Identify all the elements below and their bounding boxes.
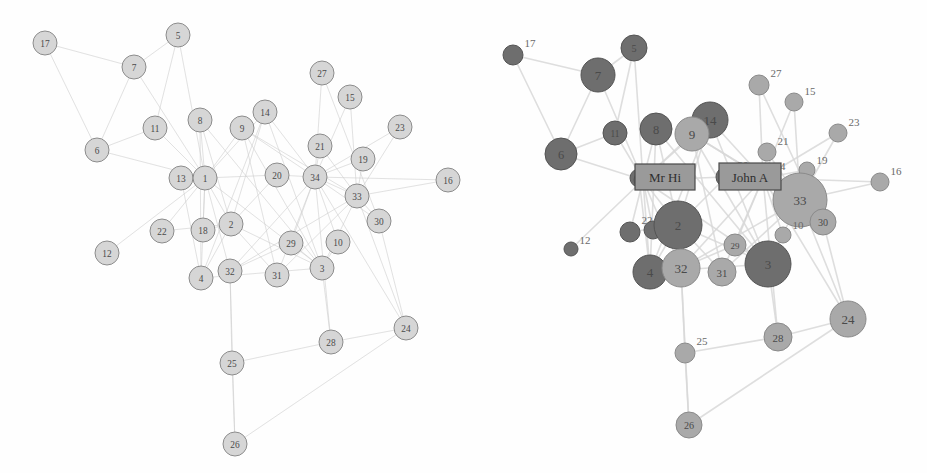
graph-node[interactable]: 5 bbox=[166, 23, 190, 47]
graph-node[interactable]: 11 bbox=[603, 121, 627, 145]
graph-node[interactable]: 19 bbox=[351, 147, 375, 171]
network-graph-uniform[interactable]: 1757271514118923216191312034163330221822… bbox=[0, 0, 463, 473]
node-id-label: 15 bbox=[345, 93, 355, 103]
graph-node[interactable]: 25 bbox=[220, 351, 244, 375]
graph-node[interactable]: 11 bbox=[143, 116, 167, 140]
graph-node[interactable]: 26 bbox=[676, 412, 702, 438]
node-id-label: 6 bbox=[558, 148, 564, 162]
graph-node[interactable]: 2 bbox=[654, 201, 702, 249]
graph-node[interactable]: 21 bbox=[758, 135, 789, 161]
graph-node[interactable]: 7 bbox=[122, 55, 146, 79]
graph-node[interactable]: 4 bbox=[633, 255, 667, 289]
node-id-label: 16 bbox=[443, 176, 453, 186]
node-id-label: 3 bbox=[320, 264, 325, 274]
graph-node[interactable]: 32 bbox=[218, 259, 242, 283]
leader-label-mr-hi[interactable]: Mr Hi bbox=[635, 164, 695, 190]
graph-edge bbox=[242, 128, 277, 275]
node-circle[interactable] bbox=[871, 173, 889, 191]
graph-node[interactable]: 24 bbox=[394, 316, 418, 340]
graph-node[interactable]: 12 bbox=[95, 241, 119, 265]
graph-node[interactable]: 4 bbox=[189, 266, 213, 290]
node-circle[interactable] bbox=[620, 222, 640, 242]
node-id-label: 13 bbox=[176, 174, 186, 184]
node-id-label: 2 bbox=[675, 218, 682, 233]
graph-node[interactable]: 26 bbox=[223, 432, 247, 456]
node-id-label: 4 bbox=[199, 274, 204, 284]
graph-node[interactable]: 3 bbox=[745, 241, 791, 287]
node-id-label: 25 bbox=[697, 335, 709, 347]
network-graph-weighted[interactable]: 1757271514118923216191312034163330221822… bbox=[463, 0, 927, 473]
graph-node[interactable]: 20 bbox=[265, 163, 289, 187]
leader-label-john-a[interactable]: John A bbox=[719, 163, 781, 190]
node-id-label: 30 bbox=[374, 217, 384, 227]
graph-node[interactable]: 27 bbox=[749, 67, 782, 95]
node-circle[interactable] bbox=[564, 242, 578, 256]
graph-node[interactable]: 9 bbox=[230, 116, 254, 140]
node-circle[interactable] bbox=[675, 343, 695, 363]
graph-node[interactable]: 27 bbox=[310, 61, 334, 85]
node-circle[interactable] bbox=[775, 227, 791, 243]
graph-node[interactable]: 6 bbox=[545, 138, 577, 170]
edge-layer bbox=[45, 35, 448, 444]
graph-node[interactable]: 12 bbox=[564, 234, 591, 256]
node-id-label: 12 bbox=[102, 249, 112, 259]
node-layer: 1757271514118923216191312034163330221822… bbox=[503, 35, 902, 438]
node-id-label: 14 bbox=[260, 108, 270, 118]
graph-node[interactable]: 16 bbox=[871, 165, 902, 191]
graph-node[interactable]: 14 bbox=[253, 100, 277, 124]
graph-node[interactable]: 2 bbox=[219, 212, 243, 236]
node-id-label: 22 bbox=[157, 227, 167, 237]
graph-node[interactable]: 15 bbox=[785, 85, 816, 111]
graph-edge bbox=[232, 342, 331, 363]
graph-node[interactable]: 29 bbox=[279, 231, 303, 255]
node-id-label: 8 bbox=[198, 116, 203, 126]
graph-node[interactable]: 6 bbox=[85, 138, 109, 162]
graph-node[interactable]: 24 bbox=[830, 301, 866, 337]
graph-node[interactable]: 34 bbox=[303, 165, 327, 189]
graph-node[interactable]: 17 bbox=[503, 37, 536, 65]
graph-node[interactable]: 1 bbox=[193, 166, 217, 190]
node-circle[interactable] bbox=[503, 45, 523, 65]
node-id-label: 19 bbox=[358, 155, 368, 165]
graph-node[interactable]: 22 bbox=[150, 219, 174, 243]
graph-node[interactable]: 8 bbox=[640, 113, 672, 145]
graph-node[interactable]: 3 bbox=[310, 256, 334, 280]
node-id-label: 10 bbox=[333, 238, 343, 248]
graph-node[interactable]: 29 bbox=[724, 234, 746, 256]
graph-node[interactable]: 17 bbox=[33, 31, 57, 55]
graph-node[interactable]: 10 bbox=[326, 230, 350, 254]
node-circle[interactable] bbox=[785, 93, 803, 111]
node-layer: 1757271514118923216191312034163330221822… bbox=[33, 23, 460, 456]
graph-node[interactable]: 25 bbox=[675, 335, 708, 363]
node-id-label: 26 bbox=[684, 420, 694, 431]
graph-node[interactable]: 30 bbox=[810, 209, 836, 235]
graph-node[interactable]: 32 bbox=[662, 249, 700, 287]
graph-node[interactable]: 5 bbox=[621, 35, 647, 61]
graph-node[interactable]: 13 bbox=[169, 166, 193, 190]
graph-node[interactable]: 23 bbox=[388, 115, 412, 139]
graph-node[interactable]: 18 bbox=[191, 218, 215, 242]
node-id-label: 32 bbox=[675, 261, 688, 276]
graph-edge bbox=[513, 55, 561, 154]
graph-node[interactable]: 16 bbox=[436, 168, 460, 192]
node-id-label: 11 bbox=[611, 129, 620, 139]
graph-node[interactable]: 33 bbox=[345, 184, 369, 208]
graph-node[interactable]: 28 bbox=[319, 330, 343, 354]
graph-node[interactable]: 28 bbox=[764, 323, 792, 351]
node-id-label: 2 bbox=[229, 220, 234, 230]
node-circle[interactable] bbox=[829, 124, 847, 142]
graph-node[interactable]: 21 bbox=[308, 134, 332, 158]
graph-node[interactable]: 8 bbox=[188, 108, 212, 132]
graph-node[interactable]: 31 bbox=[265, 263, 289, 287]
node-circle[interactable] bbox=[749, 75, 769, 95]
graph-node[interactable]: 15 bbox=[338, 85, 362, 109]
graph-node[interactable]: 7 bbox=[581, 58, 615, 92]
node-id-label: 3 bbox=[765, 257, 772, 272]
graph-node[interactable]: 30 bbox=[367, 209, 391, 233]
node-id-label: 23 bbox=[395, 123, 405, 133]
graph-node[interactable]: 23 bbox=[829, 116, 860, 142]
graph-node[interactable]: 31 bbox=[708, 258, 736, 286]
graph-node[interactable]: 9 bbox=[675, 117, 709, 151]
node-circle[interactable] bbox=[758, 143, 776, 161]
node-id-label: 31 bbox=[272, 271, 282, 281]
